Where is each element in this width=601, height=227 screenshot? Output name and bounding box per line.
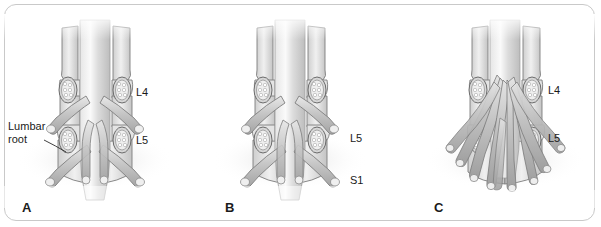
panel-a-illustration xyxy=(0,0,200,227)
top-fade-a xyxy=(0,14,200,40)
figure-container: A Lumbar root L4 L5 xyxy=(0,0,601,227)
panel-c: C L4 L5 xyxy=(400,0,601,227)
panel-a: A Lumbar root L4 L5 xyxy=(0,0,200,227)
bottom-fade-c xyxy=(400,190,601,208)
panel-c-illustration xyxy=(400,0,601,227)
panel-b: B L5 S1 xyxy=(200,0,400,227)
label-b-l5: L5 xyxy=(350,132,362,145)
panel-letter-b: B xyxy=(225,200,235,215)
label-a-l5: L5 xyxy=(136,134,148,147)
top-fade-b xyxy=(200,14,400,40)
top-fade-c xyxy=(400,14,601,40)
label-c-l4: L4 xyxy=(548,84,560,97)
panel-letter-c: C xyxy=(434,200,444,215)
label-c-l5: L5 xyxy=(548,132,560,145)
label-lumbar-root: Lumbar root xyxy=(8,120,45,146)
label-a-l4: L4 xyxy=(136,86,148,99)
label-b-s1: S1 xyxy=(350,174,363,187)
panel-letter-a: A xyxy=(22,200,32,215)
panel-b-illustration xyxy=(200,0,400,227)
